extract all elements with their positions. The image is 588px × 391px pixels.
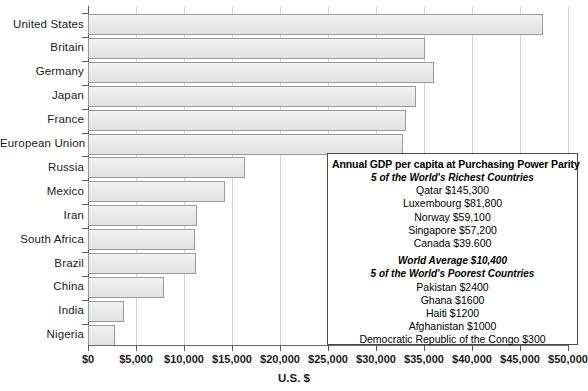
x-label-50000: $50,000 <box>548 353 588 365</box>
legend-richest-item-3: Singapore $57,200 <box>332 224 573 237</box>
x-tick-20000 <box>280 345 281 351</box>
bar-brazil <box>88 253 196 274</box>
bar-united-states <box>88 14 543 35</box>
bar-south-africa <box>88 229 195 250</box>
legend-poorest-item-3: Afghanistan $1000 <box>332 320 573 333</box>
x-tick-0 <box>88 345 89 351</box>
category-label-united-states: United States <box>0 18 84 30</box>
legend-richest-item-0: Qatar $145,300 <box>332 184 573 197</box>
legend-richest-item-1: Luxembourg $81,800 <box>332 197 573 210</box>
legend-title: Annual GDP per capita at Purchasing Powe… <box>332 158 573 171</box>
x-label-40000: $40,000 <box>452 353 492 365</box>
bar-row <box>88 110 568 131</box>
y-tick <box>82 180 89 181</box>
bar-china <box>88 277 164 298</box>
bar-row <box>88 14 568 35</box>
x-label-45000: $45,000 <box>500 353 540 365</box>
category-label-germany: Germany <box>0 65 84 77</box>
category-label-south-africa: South Africa <box>0 233 84 245</box>
x-label-20000: $20,000 <box>260 353 300 365</box>
x-tick-15000 <box>232 345 233 351</box>
y-tick <box>82 156 89 157</box>
bar-britain <box>88 38 425 59</box>
legend-richest-list: Qatar $145,300Luxembourg $81,800Norway $… <box>332 184 573 250</box>
bar-japan <box>88 86 416 107</box>
legend-richest-item-2: Norway $59,100 <box>332 211 573 224</box>
bar-row <box>88 134 568 155</box>
x-label-30000: $30,000 <box>356 353 396 365</box>
y-tick <box>82 252 89 253</box>
x-label-5000: $5,000 <box>119 353 153 365</box>
x-label-25000: $25,000 <box>308 353 348 365</box>
legend-poorest-heading: 5 of the World's Poorest Countries <box>332 267 573 280</box>
bar-india <box>88 301 124 322</box>
legend-poorest-item-1: Ghana $1600 <box>332 294 573 307</box>
x-label-15000: $15,000 <box>212 353 252 365</box>
bar-european-union <box>88 134 403 155</box>
x-label-35000: $35,000 <box>404 353 444 365</box>
y-tick <box>82 133 89 134</box>
category-label-nigeria: Nigeria <box>0 328 84 340</box>
category-label-european-union: European Union <box>0 137 84 149</box>
category-label-china: China <box>0 280 84 292</box>
x-axis-title: U.S. $ <box>0 372 588 384</box>
category-label-japan: Japan <box>0 89 84 101</box>
category-label-britain: Britain <box>0 41 84 53</box>
gdp-per-capita-bar-chart: United StatesBritainGermanyJapanFranceEu… <box>0 0 588 391</box>
x-tick-10000 <box>184 345 185 351</box>
category-label-france: France <box>0 113 84 125</box>
legend-poorest-item-2: Haiti $1200 <box>332 307 573 320</box>
category-label-brazil: Brazil <box>0 257 84 269</box>
x-tick-5000 <box>136 345 137 351</box>
y-tick <box>82 324 89 325</box>
bar-row <box>88 38 568 59</box>
y-tick <box>82 204 89 205</box>
y-tick <box>82 228 89 229</box>
y-tick <box>82 61 89 62</box>
y-tick <box>82 13 89 14</box>
y-tick <box>82 276 89 277</box>
bar-mexico <box>88 181 225 202</box>
legend-poorest-list: Pakistan $2400Ghana $1600Haiti $1200Afgh… <box>332 281 573 347</box>
y-tick <box>82 85 89 86</box>
bar-iran <box>88 205 197 226</box>
legend-poorest-item-0: Pakistan $2400 <box>332 281 573 294</box>
category-label-mexico: Mexico <box>0 185 84 197</box>
bar-row <box>88 62 568 83</box>
x-label-10000: $10,000 <box>164 353 204 365</box>
y-tick <box>82 109 89 110</box>
bar-row <box>88 86 568 107</box>
bar-russia <box>88 157 245 178</box>
x-label-0: $0 <box>82 353 94 365</box>
y-axis-category-labels: United StatesBritainGermanyJapanFranceEu… <box>0 0 84 391</box>
legend-world-average: World Average $10,400 <box>332 254 573 267</box>
legend-poorest-item-4: Democratic Republic of the Congo $300 <box>332 333 573 346</box>
category-label-india: India <box>0 304 84 316</box>
bar-nigeria <box>88 325 115 346</box>
y-tick <box>82 37 89 38</box>
legend-richest-item-4: Canada $39.600 <box>332 237 573 250</box>
category-label-russia: Russia <box>0 161 84 173</box>
category-label-iran: Iran <box>0 209 84 221</box>
x-tick-25000 <box>328 345 329 351</box>
legend-annotation-box: Annual GDP per capita at Purchasing Powe… <box>327 153 578 345</box>
legend-richest-heading: 5 of the World's Richest Countries <box>332 171 573 184</box>
bar-france <box>88 110 406 131</box>
bar-germany <box>88 62 434 83</box>
y-tick <box>82 300 89 301</box>
